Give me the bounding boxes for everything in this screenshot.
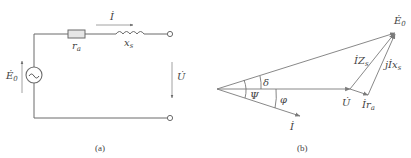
e0-phasor-label: Ė0 [393, 15, 406, 28]
inductor-xs [116, 32, 144, 35]
phi-angle-arc [275, 89, 276, 108]
jixs-label: jİxs [383, 59, 402, 72]
voltage-label: U̇ [177, 71, 186, 82]
diagram-canvas: Ė0 İ U̇ ra xs (a) Ė0 U̇ İ İra İZs [0, 0, 411, 158]
izs-label: İZs [353, 55, 369, 68]
u-phasor-label: U̇ [342, 97, 351, 108]
i-phasor-label: İ [289, 121, 295, 132]
inductor-label: xs [124, 37, 134, 50]
terminal-bottom [167, 115, 172, 120]
caption-a: (a) [95, 143, 105, 153]
equivalent-circuit: Ė0 İ U̇ ra xs (a) [5, 11, 186, 153]
resistor-label: ra [72, 40, 81, 53]
delta-angle-label: δ [263, 77, 269, 88]
caption-b: (b) [297, 143, 308, 153]
ira-label: İra [361, 99, 375, 112]
psi-angle-label: Ψ [250, 90, 260, 101]
ira-phasor [350, 89, 368, 95]
terminal-top [167, 31, 172, 36]
phi-angle-label: φ [280, 94, 287, 105]
e0-label: Ė0 [5, 70, 18, 83]
phasor-diagram: Ė0 U̇ İ İra İZs jİxs δ Ψ φ (b) [217, 15, 406, 153]
delta-angle-arc [260, 76, 261, 89]
resistor-ra [68, 30, 85, 38]
ac-source-icon [26, 67, 42, 83]
current-label: İ [109, 11, 115, 22]
